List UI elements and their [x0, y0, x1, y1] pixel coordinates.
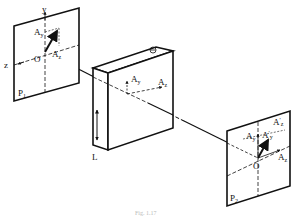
axis-y-label: y [42, 4, 47, 14]
axis-z-label: z [4, 60, 8, 70]
figure-caption: Fig. 1.17 [135, 210, 157, 216]
right-origin-label: O [253, 161, 260, 171]
panel-right: Ay A′y A′z Az O P2 [227, 111, 290, 206]
optics-diagram: y z O Ay Az P1 Ay Az L [0, 0, 297, 219]
crystal-block: Ay Az L [92, 47, 173, 162]
origin-label: O [34, 54, 41, 64]
panel-left: y z O Ay Az P1 [4, 4, 79, 101]
length-label: L [92, 152, 98, 162]
